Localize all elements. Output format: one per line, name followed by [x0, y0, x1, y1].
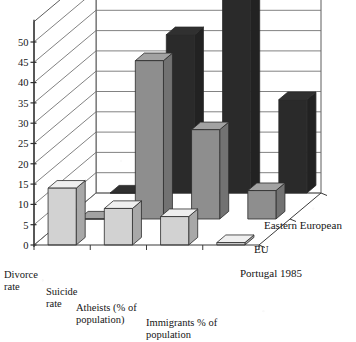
series-label-eu: EU	[254, 243, 269, 255]
series-label-portugal-1985: Portugal 1985	[240, 267, 303, 279]
bar-eu-immigrants-of-population	[248, 183, 285, 219]
value-axis-tick: 20	[18, 159, 29, 170]
bar-side	[220, 122, 229, 219]
value-axis-tick: 35	[18, 98, 29, 109]
bar-front	[279, 100, 307, 193]
bar-front	[248, 191, 276, 219]
bar-side	[251, 0, 260, 193]
value-axis-tick: 40	[18, 77, 29, 88]
bar-eastern-european-immigrants-of-population	[279, 92, 316, 193]
bar-front	[48, 188, 76, 245]
value-axis-tick: 25	[18, 138, 29, 149]
bar-eu-atheists-of-population	[192, 122, 229, 219]
value-axis-tick: 15	[18, 179, 29, 190]
bar-portugal-1985-suicide-rate	[104, 201, 141, 245]
value-axis-tick: 30	[18, 118, 29, 129]
bar-side	[76, 181, 85, 245]
bar-portugal-1985-atheists-of-population	[161, 209, 198, 245]
bar-eu-suicide-rate	[135, 53, 172, 219]
bar-portugal-1985-divorce-rate	[48, 181, 85, 245]
bar-front	[192, 130, 220, 219]
value-axis-tick: 10	[18, 199, 29, 210]
bar-front	[135, 61, 163, 219]
value-axis-tick: 45	[18, 57, 29, 68]
bar-side	[307, 92, 316, 193]
chart-container: 50454035302520151050 DivorcerateSuicider…	[0, 0, 356, 342]
value-axis-tick: 5	[23, 220, 28, 231]
bar-front	[161, 217, 189, 245]
value-axis-tick: 50	[18, 37, 29, 48]
value-axis-tick: 0	[23, 240, 28, 251]
bar-front	[104, 208, 132, 245]
bar-side	[163, 53, 172, 219]
bar-chart-3d: 50454035302520151050 DivorcerateSuicider…	[0, 0, 356, 342]
series-label-eastern-european: Eastern European	[264, 219, 342, 231]
